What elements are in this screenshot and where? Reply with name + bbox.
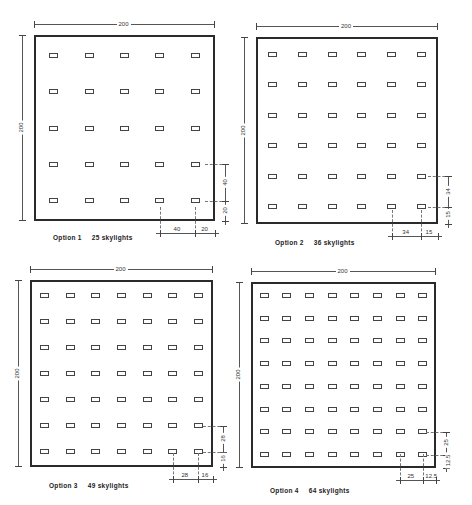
dimension-tick bbox=[173, 476, 174, 483]
skylight bbox=[357, 174, 366, 179]
skylight bbox=[168, 345, 177, 350]
skylight bbox=[350, 316, 359, 321]
skylight bbox=[66, 319, 75, 324]
skylight bbox=[396, 384, 405, 389]
width-label: 200 bbox=[336, 268, 350, 275]
spacing-dimension-line bbox=[388, 236, 443, 237]
option-label: Option 3 bbox=[49, 482, 78, 489]
skylight bbox=[260, 384, 269, 389]
skylight bbox=[387, 143, 396, 148]
skylight bbox=[417, 204, 426, 209]
dimension-tick bbox=[421, 233, 422, 240]
skylight bbox=[305, 338, 314, 343]
dimension-tick bbox=[215, 230, 216, 237]
skylight bbox=[328, 384, 337, 389]
skylight bbox=[418, 293, 427, 298]
skylight bbox=[328, 293, 337, 298]
skylight bbox=[418, 338, 427, 343]
skylight bbox=[305, 316, 314, 321]
vertical-edge-label: 15 bbox=[445, 210, 452, 221]
skylight bbox=[396, 293, 405, 298]
skylight bbox=[117, 293, 126, 298]
skylight bbox=[328, 407, 337, 412]
skylight bbox=[418, 316, 427, 321]
skylight bbox=[417, 113, 426, 118]
skylight bbox=[143, 345, 152, 350]
skylight bbox=[268, 52, 277, 57]
skylight bbox=[305, 407, 314, 412]
skylight bbox=[49, 53, 58, 58]
skylight bbox=[357, 113, 366, 118]
skylight bbox=[85, 198, 94, 203]
option-caption: Option 236 skylights bbox=[275, 239, 365, 246]
skylight bbox=[155, 198, 164, 203]
skylight bbox=[298, 82, 307, 87]
skylight bbox=[328, 113, 337, 118]
skylight bbox=[373, 361, 382, 366]
option-caption: Option 464 skylights bbox=[270, 487, 360, 494]
dimension-tick bbox=[19, 220, 26, 221]
skylight bbox=[40, 371, 49, 376]
dimension-tick bbox=[30, 266, 31, 273]
skylight bbox=[328, 174, 337, 179]
skylight bbox=[268, 82, 277, 87]
skylight bbox=[373, 407, 382, 412]
skylight bbox=[350, 429, 359, 434]
skylight bbox=[260, 316, 269, 321]
skylight bbox=[168, 319, 177, 324]
skylight bbox=[387, 52, 396, 57]
skylight bbox=[282, 293, 291, 298]
skylight bbox=[120, 162, 129, 167]
spacing-dimension-line bbox=[448, 176, 449, 228]
skylight bbox=[117, 449, 126, 454]
skylight bbox=[328, 52, 337, 57]
skylight bbox=[357, 143, 366, 148]
dimension-tick bbox=[241, 37, 248, 38]
skylight bbox=[91, 293, 100, 298]
skylight bbox=[66, 293, 75, 298]
skylight bbox=[194, 371, 203, 376]
height-label: 200 bbox=[240, 123, 247, 137]
horizontal-edge-label: 20 bbox=[199, 226, 210, 233]
skylight bbox=[191, 89, 200, 94]
skylight bbox=[120, 198, 129, 203]
skylight bbox=[194, 345, 203, 350]
skylight bbox=[85, 53, 94, 58]
skylight bbox=[117, 319, 126, 324]
skylight bbox=[282, 338, 291, 343]
horizontal-spacing-label: 34 bbox=[400, 229, 411, 236]
option-caption: Option 349 skylights bbox=[49, 482, 139, 489]
skylight bbox=[194, 423, 203, 428]
dimension-tick bbox=[220, 467, 227, 468]
dimension-tick bbox=[195, 230, 196, 237]
skylight bbox=[49, 162, 58, 167]
dimension-tick bbox=[445, 176, 452, 177]
skylight bbox=[328, 316, 337, 321]
skylight bbox=[298, 113, 307, 118]
dimension-tick bbox=[435, 268, 436, 275]
skylight-count: 49 skylights bbox=[88, 482, 129, 489]
dimension-tick bbox=[445, 207, 452, 208]
skylight bbox=[260, 452, 269, 457]
skylight bbox=[298, 143, 307, 148]
skylight bbox=[260, 293, 269, 298]
skylight bbox=[328, 452, 337, 457]
option-label: Option 4 bbox=[270, 487, 299, 494]
vertical-spacing-label: 28 bbox=[220, 433, 227, 444]
skylight bbox=[155, 53, 164, 58]
dimension-tick bbox=[236, 467, 243, 468]
dimension-tick bbox=[256, 23, 257, 30]
spacing-dimension-line bbox=[156, 233, 219, 234]
skylight bbox=[49, 126, 58, 131]
skylight-count: 25 skylights bbox=[92, 234, 133, 241]
skylight bbox=[117, 397, 126, 402]
dimension-tick bbox=[222, 164, 229, 165]
dimension-tick bbox=[400, 477, 401, 484]
skylight bbox=[373, 293, 382, 298]
skylight bbox=[282, 407, 291, 412]
skylight bbox=[191, 53, 200, 58]
skylight bbox=[91, 449, 100, 454]
skylight bbox=[194, 397, 203, 402]
skylight bbox=[194, 293, 203, 298]
skylight bbox=[260, 338, 269, 343]
